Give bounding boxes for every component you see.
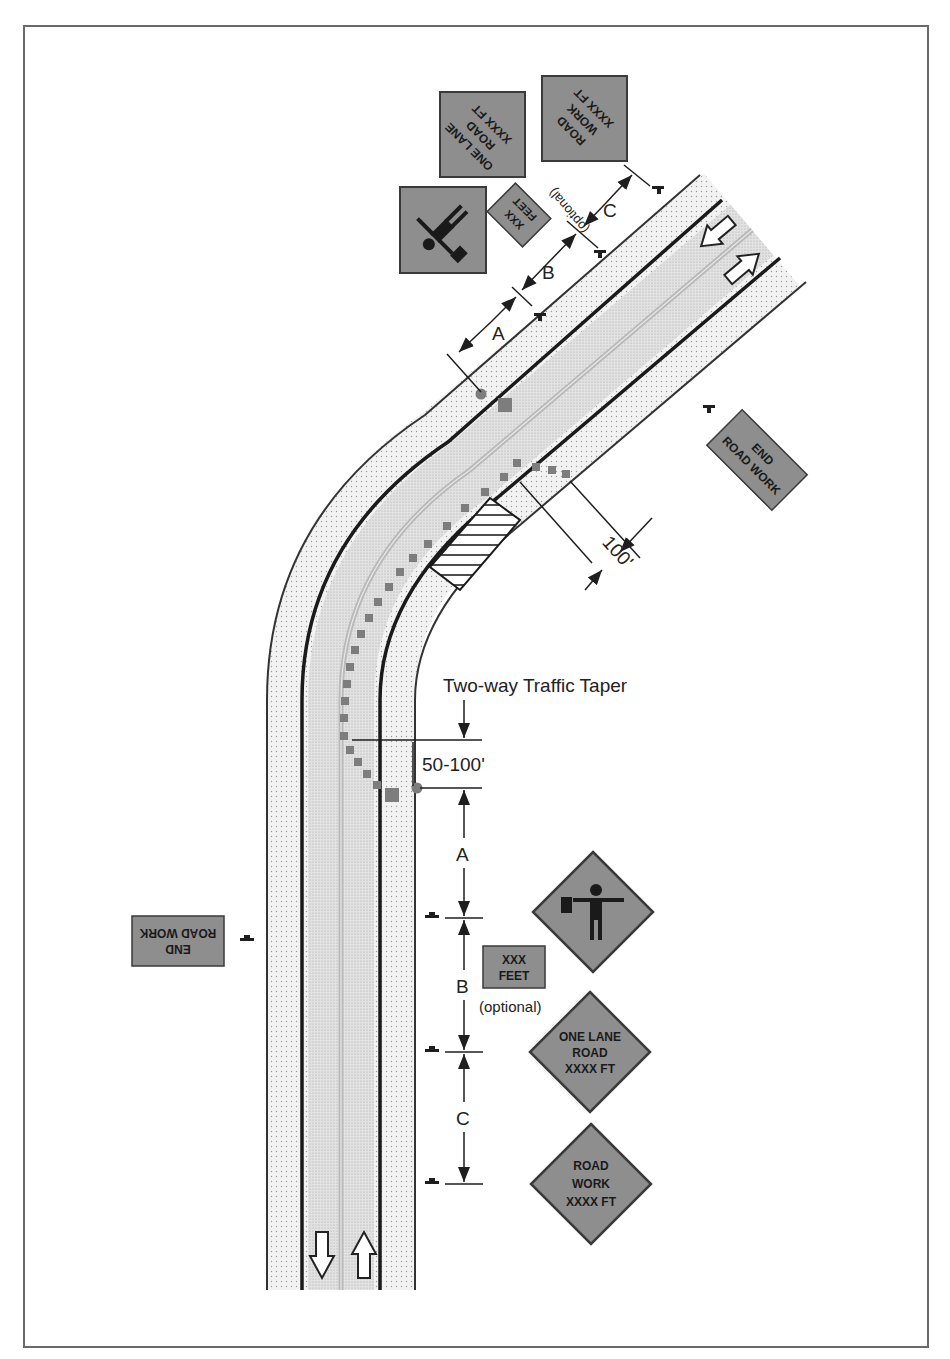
end-road-work-sign-right: END ROAD WORK (707, 410, 807, 510)
svg-text:ROAD: ROAD (573, 1159, 609, 1173)
svg-text:ONE LANE: ONE LANE (559, 1030, 621, 1044)
xxx-feet-sign-top: XXX FEET (487, 183, 551, 247)
taper-label: Two-way Traffic Taper (443, 675, 628, 696)
spacing-a-top: A (492, 323, 505, 344)
spacing-a-bottom: A (456, 844, 469, 865)
svg-text:FEET: FEET (499, 969, 530, 983)
road-work-sign-bottom: ROAD WORK XXXX FT (531, 1124, 651, 1244)
one-lane-road-sign-bottom: ONE LANE ROAD XXXX FT (530, 992, 650, 1112)
xxx-feet-sign-bottom: XXX FEET (483, 946, 545, 988)
svg-text:ROAD: ROAD (572, 1046, 608, 1060)
flagger-sign-top (400, 187, 488, 273)
taper-length-label: 50-100' (422, 754, 485, 775)
svg-text:END: END (165, 942, 191, 956)
work-zone-diagram: Two-way Traffic Taper 50-100' A B C (opt… (0, 0, 950, 1359)
spacing-c-bottom: C (456, 1108, 470, 1129)
flagger-sign-bottom (533, 852, 653, 972)
spacing-b-top: B (542, 262, 555, 283)
svg-text:XXXX FT: XXXX FT (566, 1195, 617, 1209)
road-work-sign-top: ROAD WORK XXXX FT (542, 76, 627, 161)
buffer-length-label: 100' (598, 531, 637, 571)
svg-text:XXXX FT: XXXX FT (565, 1062, 616, 1076)
optional-label-top: (optional) (545, 185, 591, 236)
spacing-b-bottom: B (456, 976, 469, 997)
one-lane-road-sign-top: ONE LANE ROAD XXXX FT (440, 92, 525, 177)
svg-text:WORK: WORK (572, 1177, 610, 1191)
svg-text:XXX: XXX (502, 953, 526, 967)
flagger-station-top (476, 389, 487, 400)
optional-label-bottom: (optional) (479, 998, 542, 1015)
spacing-c-top: C (603, 200, 617, 221)
svg-text:ROAD WORK: ROAD WORK (139, 926, 216, 940)
end-road-work-sign-left: END ROAD WORK (132, 916, 224, 966)
